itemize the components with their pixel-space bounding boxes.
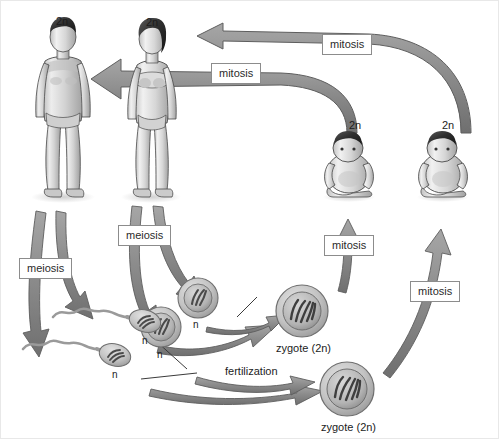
arrow-mitosis-zygote-to-right-infant — [383, 229, 451, 378]
label-mitosis-right-infant[interactable]: mitosis — [410, 281, 460, 302]
ploidy-label-adult-female: 2n — [146, 16, 158, 28]
label-mitosis-left-infant[interactable]: mitosis — [324, 235, 374, 256]
cell-sperm-upper — [53, 306, 163, 336]
label-mitosis-top-right[interactable]: mitosis — [322, 34, 372, 55]
life-cycle-diagram: 2n 2n 2n 2n mitosis mitosis mitosis mito… — [0, 0, 499, 439]
figure-adult-female — [121, 18, 181, 203]
figure-infant-left — [323, 131, 375, 202]
ploidy-label-egg-upper: n — [193, 319, 199, 331]
label-mitosis-top-left[interactable]: mitosis — [211, 63, 261, 84]
ploidy-label-adult-male: 2n — [56, 15, 68, 27]
label-meiosis-female[interactable]: meiosis — [118, 225, 171, 246]
figure-adult-male — [31, 17, 95, 203]
ploidy-label-sperm-upper: n — [142, 335, 148, 347]
label-zygote-upper: zygote (2n) — [276, 342, 331, 354]
cell-zygote-upper — [276, 285, 328, 337]
label-meiosis-male[interactable]: meiosis — [19, 258, 72, 279]
figure-infant-right — [417, 131, 469, 202]
arrow-mitosis-zygote-to-left-infant — [336, 219, 360, 293]
ploidy-label-egg-lower: n — [157, 349, 163, 361]
arrow-fertilization-lower — [149, 376, 323, 405]
cell-egg-upper — [178, 278, 218, 318]
label-fertilization: fertilization — [225, 365, 278, 377]
ploidy-label-sperm-lower: n — [112, 369, 118, 381]
arrow-meiosis-male — [23, 211, 93, 357]
ploidy-label-infant-left: 2n — [349, 119, 361, 131]
cell-zygote-lower — [320, 362, 374, 416]
label-zygote-lower: zygote (2n) — [321, 421, 376, 433]
ploidy-label-infant-right: 2n — [442, 119, 454, 131]
